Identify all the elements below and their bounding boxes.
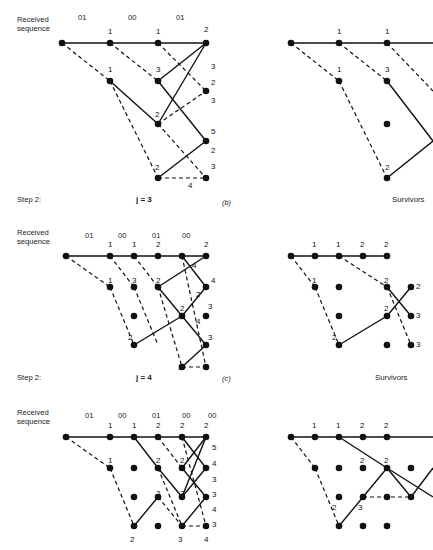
panel-d-left-trellis bbox=[63, 434, 210, 530]
metric-c-l-0: 1 bbox=[108, 240, 112, 249]
metric-c-r-1: 1 bbox=[336, 240, 340, 249]
metric-c-r-8: 3 bbox=[416, 311, 420, 320]
received-bit-d-0: 01 bbox=[85, 412, 93, 421]
metric-c-r-2: 2 bbox=[360, 240, 364, 249]
metric-d-l-14: 4 bbox=[212, 505, 216, 514]
metric-b-r-4: 2 bbox=[385, 163, 389, 172]
metric-d-r-3: 2 bbox=[384, 421, 388, 430]
received-bit-d-4: 00 bbox=[208, 412, 216, 421]
metric-b-l-3: 1 bbox=[108, 65, 112, 74]
step-label-b: Step 2: bbox=[17, 196, 41, 205]
panel-d-right-survivors bbox=[288, 434, 433, 530]
metric-c-l-13: 2 bbox=[128, 333, 132, 342]
metric-c-r-5: 2 bbox=[384, 276, 388, 285]
metric-d-l-11: 2 bbox=[156, 489, 160, 498]
metric-c-r-3: 2 bbox=[384, 240, 388, 249]
metric-b-l-0: 1 bbox=[108, 27, 112, 36]
metric-b-l-5: 3 bbox=[211, 62, 215, 71]
metric-d-l-3: 2 bbox=[180, 421, 184, 430]
metric-b-r-2: 1 bbox=[337, 65, 341, 74]
received-bit-d-1: 00 bbox=[118, 412, 126, 421]
metric-d-l-10: 3 bbox=[212, 475, 216, 484]
received-bit-d-3: 00 bbox=[182, 412, 190, 421]
metric-b-l-8: 2 bbox=[155, 110, 159, 119]
metric-d-l-16: 2 bbox=[130, 535, 134, 544]
metric-d-r-4: 2 bbox=[360, 456, 364, 465]
metric-c-l-14: 3 bbox=[208, 333, 212, 342]
metric-c-l-3: 2 bbox=[204, 240, 208, 249]
metric-b-l-10: 2 bbox=[211, 146, 215, 155]
metric-c-l-15: 3 bbox=[178, 363, 182, 372]
metric-c-l-6: 2 bbox=[156, 276, 160, 285]
metric-d-r-0: 1 bbox=[312, 421, 316, 430]
metric-b-l-7: 3 bbox=[211, 96, 215, 105]
metric-b-l-1: 1 bbox=[156, 27, 160, 36]
metric-c-r-10: 3 bbox=[416, 340, 420, 349]
j-value-b: j = 3 bbox=[136, 195, 152, 204]
metric-d-l-0: 1 bbox=[108, 421, 112, 430]
panel-b-left-trellis bbox=[59, 40, 210, 182]
panel-b-right-survivors bbox=[288, 40, 433, 182]
metric-b-l-2: 2 bbox=[204, 25, 208, 34]
metric-b-l-11: 2 bbox=[155, 163, 159, 172]
metric-b-r-3: 3 bbox=[385, 65, 389, 74]
metric-d-l-17: 3 bbox=[178, 535, 182, 544]
step-label-c: Step 2: bbox=[17, 374, 41, 383]
j-value-c: j = 4 bbox=[136, 373, 152, 382]
metric-b-l-4: 3 bbox=[156, 65, 160, 74]
survivors-label-c: Survivors bbox=[375, 374, 408, 383]
metric-c-l-2: 2 bbox=[156, 240, 160, 249]
metric-c-l-4: 1 bbox=[108, 276, 112, 285]
metric-d-l-7: 2 bbox=[180, 456, 184, 465]
received-bit-b-2: 01 bbox=[176, 14, 184, 23]
metric-c-l-10: 2 bbox=[180, 304, 184, 313]
metric-c-l-12: 4 bbox=[196, 317, 200, 326]
metric-b-l-13: 4 bbox=[188, 181, 192, 190]
metric-c-r-7: 2 bbox=[384, 304, 388, 313]
received-bit-c-0: 01 bbox=[85, 232, 93, 241]
panel-c-left-trellis bbox=[63, 253, 210, 371]
metric-b-l-12: 3 bbox=[211, 162, 215, 171]
metric-d-l-8: 5 bbox=[212, 443, 216, 452]
received-sequence-label-b: Received sequence bbox=[17, 16, 50, 33]
metric-d-l-13: 3 bbox=[212, 490, 216, 499]
metric-d-l-6: 2 bbox=[156, 456, 160, 465]
metric-d-r-6: 2 bbox=[332, 503, 336, 512]
metric-c-l-11: 3 bbox=[208, 302, 212, 311]
metric-d-l-4: 2 bbox=[204, 421, 208, 430]
metric-d-r-1: 1 bbox=[336, 421, 340, 430]
panel-c-right-survivors bbox=[288, 253, 415, 349]
metric-d-r-2: 2 bbox=[360, 421, 364, 430]
metric-b-l-9: 5 bbox=[211, 127, 215, 136]
metric-b-r-0: 1 bbox=[337, 27, 341, 36]
metric-d-l-12: 3 bbox=[180, 489, 184, 498]
metric-d-l-15: 3 bbox=[212, 520, 216, 529]
metric-c-l-9: 2 bbox=[196, 290, 200, 299]
metric-c-r-6: 2 bbox=[416, 282, 420, 291]
received-bit-c-3: 00 bbox=[182, 232, 190, 241]
metric-c-l-8: 4 bbox=[211, 276, 215, 285]
metric-c-l-5: 3 bbox=[132, 276, 136, 285]
metric-d-l-5: 1 bbox=[108, 456, 112, 465]
survivors-label-b: Survivors bbox=[392, 196, 425, 205]
metric-c-l-16: 4 bbox=[204, 363, 208, 372]
trellis-canvas bbox=[0, 0, 433, 550]
received-bit-c-1: 00 bbox=[118, 232, 126, 241]
metric-d-l-18: 4 bbox=[204, 535, 208, 544]
metric-c-r-0: 1 bbox=[312, 240, 316, 249]
metric-d-l-9: 4 bbox=[212, 459, 216, 468]
metric-b-l-6: 2 bbox=[211, 78, 215, 87]
metric-b-r-1: 1 bbox=[385, 27, 389, 36]
received-bit-d-2: 01 bbox=[152, 412, 160, 421]
metric-c-r-9: 2 bbox=[332, 333, 336, 342]
received-sequence-label-d: Received sequence bbox=[17, 409, 50, 426]
metric-d-l-1: 1 bbox=[132, 421, 136, 430]
received-bit-b-0: 01 bbox=[78, 14, 86, 23]
viterbi-trellis-figure: Received sequence 01 00 01 1 1 2 1 3 3 2… bbox=[0, 0, 433, 550]
metric-c-l-1: 1 bbox=[132, 240, 136, 249]
metric-d-r-7: 3 bbox=[358, 503, 362, 512]
metric-d-r-5: 2 bbox=[384, 456, 388, 465]
received-bit-b-1: 00 bbox=[128, 14, 136, 23]
metric-c-r-4: 1 bbox=[312, 276, 316, 285]
panel-tag-c: (c) bbox=[222, 375, 231, 384]
